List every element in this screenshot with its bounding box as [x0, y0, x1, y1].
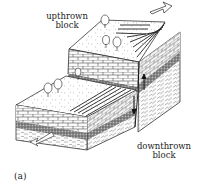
fault-block-diagram: upthrown block downthrown block (a) — [0, 0, 204, 190]
label-line: block — [132, 151, 196, 160]
downthrown-block-label: downthrown block — [132, 142, 196, 160]
upthrown-block-label: upthrown block — [42, 12, 92, 30]
label-line: block — [42, 21, 92, 30]
strike-direction-arrow — [150, 2, 172, 14]
panel-label: (a) — [14, 172, 26, 181]
diagram-svg — [0, 0, 204, 190]
